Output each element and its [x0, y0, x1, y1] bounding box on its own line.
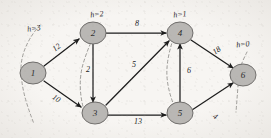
graph-edges — [44, 33, 233, 115]
node-6-label: 6 — [241, 70, 246, 80]
edge-1-2 — [44, 39, 79, 66]
edge-weight-2-4: 8 — [135, 19, 139, 28]
node-4[interactable]: 4 — [167, 22, 193, 44]
node-3-label: 3 — [92, 108, 98, 118]
node-4-label: 4 — [178, 28, 183, 38]
edge-weight-5-4: 6 — [187, 66, 191, 75]
graph-svg: 1 2 3 4 5 6 h=3 — [0, 0, 271, 138]
node-2[interactable]: 2 — [80, 22, 106, 44]
node-3[interactable]: 3 — [82, 102, 108, 124]
node-2-label: 2 — [91, 28, 96, 38]
graph-diagram-canvas: 1 2 3 4 5 6 h=3 — [0, 0, 271, 138]
edge-1-3 — [44, 81, 81, 107]
edge-weight-5-6: 4 — [211, 112, 219, 122]
edge-weight-1-3: 10 — [51, 92, 63, 104]
edge-weight-3-5: 13 — [134, 117, 142, 126]
node-1[interactable]: 1 — [20, 62, 46, 84]
edge-weight-labels: 12 10 2 8 5 13 6 18 4 — [51, 19, 223, 126]
heuristic-label-node-1: h=3 — [27, 23, 42, 34]
heuristic-label-node-2: h=2 — [90, 9, 104, 19]
edge-4-6 — [191, 40, 233, 68]
node-5-label: 5 — [178, 108, 183, 118]
edge-3-4 — [106, 41, 169, 105]
edge-weight-3-4: 5 — [132, 60, 136, 69]
edge-5-6 — [192, 83, 233, 110]
heuristic-label-node-6: h=0 — [236, 39, 250, 49]
node-5[interactable]: 5 — [167, 102, 193, 124]
node-6[interactable]: 6 — [230, 64, 256, 86]
heuristic-label-node-4: h=1 — [173, 9, 187, 19]
edge-weight-1-2: 12 — [51, 41, 63, 53]
node-1-label: 1 — [31, 68, 36, 78]
heuristic-guide-curves — [21, 23, 247, 124]
heuristic-labels: h=3 h=2 h=1 h=0 — [27, 9, 250, 49]
edge-weight-2-3: 2 — [86, 65, 90, 74]
